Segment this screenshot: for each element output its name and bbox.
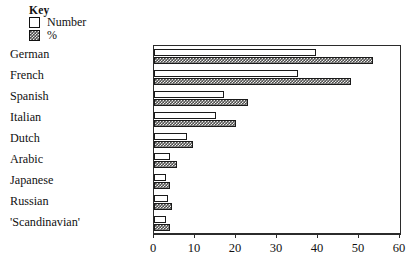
category-axis: GermanFrenchSpanishItalianDutchArabicJap… [0, 45, 150, 233]
axis-tick [276, 233, 277, 238]
axis-tick [317, 233, 318, 238]
bar-group-container [154, 46, 400, 234]
axis-tick-label: 0 [150, 241, 156, 255]
category-label: Dutch [10, 132, 148, 145]
bar-number [154, 153, 170, 160]
bar-percent [154, 224, 170, 231]
axis-tick-label: 30 [270, 241, 283, 255]
bar-number [154, 49, 316, 56]
axis-tick [235, 233, 236, 238]
hatched-square-icon [29, 30, 40, 41]
bar-percent [154, 78, 351, 85]
axis-tick-label: 50 [352, 241, 365, 255]
axis-tick-label: 20 [229, 241, 242, 255]
category-label: French [10, 69, 148, 82]
category-label: Italian [10, 111, 148, 124]
bar-percent [154, 57, 373, 64]
legend-label-percent: % [47, 29, 57, 42]
axis-tick [153, 233, 154, 238]
plot-area [153, 45, 401, 235]
axis-tick-label: 10 [188, 241, 201, 255]
bar-percent [154, 99, 248, 106]
axis-tick [194, 233, 195, 238]
bar-percent [154, 182, 170, 189]
bar-number [154, 112, 216, 119]
axis-tick-label: 40 [311, 241, 324, 255]
axis-tick [399, 233, 400, 238]
category-label: Japanese [10, 174, 148, 187]
bar-number [154, 91, 224, 98]
axis-tick-label: 60 [393, 241, 406, 255]
category-label: Russian [10, 195, 148, 208]
chart-legend: Key Number % [29, 4, 139, 42]
bar-number [154, 195, 168, 202]
category-label: Spanish [10, 90, 148, 103]
bar-number [154, 133, 187, 140]
category-label: German [10, 48, 148, 61]
legend-item-number: Number [29, 16, 139, 29]
open-square-icon [29, 17, 40, 28]
bar-percent [154, 203, 172, 210]
value-axis: 0102030405060 [153, 233, 399, 263]
bar-percent [154, 120, 236, 127]
bar-percent [154, 141, 193, 148]
legend-item-percent: % [29, 29, 139, 42]
axis-tick [358, 233, 359, 238]
bar-number [154, 70, 298, 77]
bar-number [154, 174, 166, 181]
bar-percent [154, 161, 177, 168]
bar-number [154, 216, 166, 223]
category-label: 'Scandinavian' [10, 216, 148, 229]
category-label: Arabic [10, 153, 148, 166]
